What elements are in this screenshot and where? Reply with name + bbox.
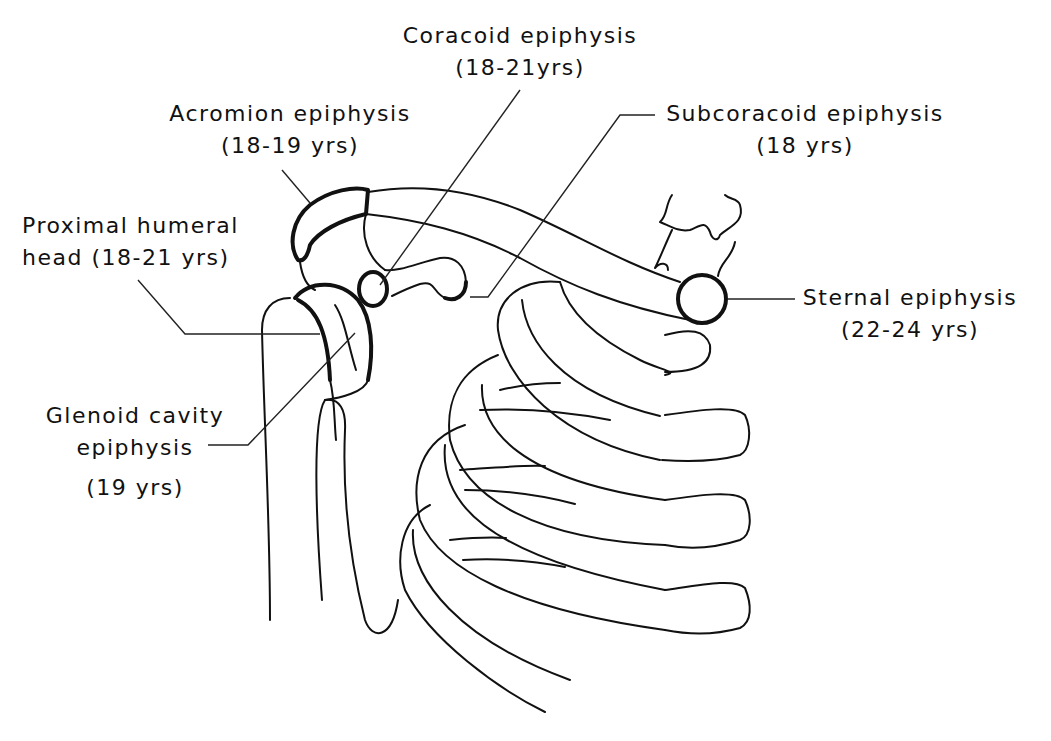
label-sternal-epiphysis: Sternal epiphysis (22-24 yrs) <box>795 282 1025 346</box>
label-glenoid-cavity-epiphysis: Glenoid cavity epiphysis (19 yrs) <box>35 400 235 504</box>
label-subcoracoid-epiphysis: Subcoracoid epiphysis (18 yrs) <box>655 98 955 162</box>
sternal-epiphysis <box>678 275 726 323</box>
clavicle <box>366 188 690 320</box>
acromion-epiphysis <box>293 189 368 261</box>
ribs <box>400 282 749 712</box>
shoulder-epiphyses-diagram: Coracoid epiphysis (18-21yrs) Acromion e… <box>0 0 1051 741</box>
humeral-head-epiphysis <box>295 285 371 380</box>
coracoid-epiphysis <box>359 272 387 306</box>
label-acromion-epiphysis: Acromion epiphysis (18-19 yrs) <box>155 98 425 162</box>
label-proximal-humeral-head: Proximal humeral head (18-21 yrs) <box>22 210 262 274</box>
label-coracoid-epiphysis: Coracoid epiphysis (18-21yrs) <box>400 20 640 84</box>
